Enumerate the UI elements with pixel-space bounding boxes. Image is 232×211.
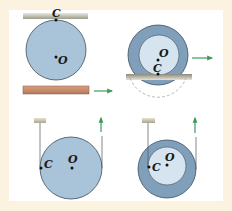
label-o: O [159,47,169,60]
figure-spool-hanging: C O [138,118,196,198]
figure-wheel-rolling: O C [126,25,212,97]
label-c: C [44,158,53,171]
label-o: O [165,151,175,164]
label-c: C [153,62,162,75]
contact-point-c [40,167,43,170]
contact-point-c [148,166,151,169]
label-c: C [152,161,161,174]
center-point-o [71,167,74,170]
label-c: C [52,7,61,20]
figure-disk-hanging: C O [34,118,102,199]
disk [26,20,86,80]
instant-center-diagrams: C O O C C O C O [0,0,232,211]
ceiling-support [34,118,46,123]
label-o: O [68,153,78,166]
label-o: O [58,54,68,67]
figure-disk-between-plates: C O [23,7,112,94]
ceiling-support [142,118,155,123]
lower-plate [23,86,89,94]
